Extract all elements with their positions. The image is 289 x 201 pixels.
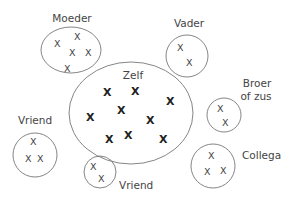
mark: X (204, 166, 211, 177)
mark: X (217, 103, 224, 114)
mark: X (85, 47, 92, 58)
vriend-left-label: Vriend (18, 114, 52, 126)
mark: X (30, 136, 37, 147)
group-vriend-bottom: Vriend X X (84, 156, 153, 191)
vader-circle (166, 35, 208, 77)
mark: X (98, 173, 105, 184)
mark: X (131, 85, 140, 98)
vriend-bottom-label: Vriend (119, 179, 153, 191)
mark: X (25, 153, 32, 164)
mark: X (159, 133, 168, 146)
zelf-label: Zelf (123, 69, 144, 81)
zelf-marks: X X X X X X X X X (86, 85, 175, 146)
mark: X (105, 133, 114, 146)
mark: X (177, 42, 184, 53)
mark: X (69, 47, 76, 58)
mark: X (74, 31, 81, 42)
mark: X (186, 57, 193, 68)
group-moeder: Moeder X X X X X (41, 12, 101, 74)
mark: X (208, 150, 215, 161)
mark: X (124, 129, 133, 142)
mark: X (64, 63, 71, 74)
broer-of-zus-label-line1: Broer (243, 77, 272, 89)
group-broer-of-zus: Broer of zus X X (207, 77, 272, 132)
mark: X (86, 111, 95, 124)
mark: X (146, 114, 155, 127)
group-vader: Vader X X (166, 17, 208, 77)
mark: X (90, 161, 97, 172)
mark: X (54, 38, 61, 49)
broer-of-zus-label-line2: of zus (240, 90, 271, 102)
mark: X (103, 86, 112, 99)
mark: X (166, 95, 175, 108)
mark: X (117, 104, 126, 117)
mark: X (37, 153, 44, 164)
mark: X (222, 117, 229, 128)
group-collega: Collega X X X (191, 144, 281, 188)
collega-label: Collega (242, 149, 281, 161)
mark: X (220, 165, 227, 176)
group-zelf: Zelf X X X X X X X X X (69, 62, 193, 164)
group-vriend-left: Vriend X X X (13, 114, 57, 177)
moeder-label: Moeder (52, 12, 92, 24)
network-diagram: Zelf X X X X X X X X X Moeder X X X X X … (0, 0, 289, 201)
vader-label: Vader (174, 17, 205, 29)
